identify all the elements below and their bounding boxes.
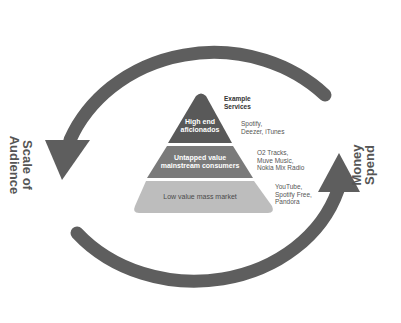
tier3-line1: Low value mass market	[145, 193, 255, 201]
tier2-line2: mainstream consumers	[150, 162, 250, 170]
service-item: O2 Tracks,	[257, 149, 304, 157]
services-high-end: Spotify, Deezer, iTunes	[241, 120, 284, 135]
left-label-line1: Scale of	[21, 130, 34, 200]
arrowhead-down-icon	[45, 140, 90, 180]
money-spend-label: Money Spend	[350, 130, 380, 200]
tier2-line1: Untapped value	[150, 154, 250, 162]
tier1-line2: aficionados	[168, 126, 232, 134]
service-item: Spotify Free,	[275, 191, 312, 199]
tier1-line1: High end	[168, 118, 232, 126]
services-mass-market: YouTube, Spotify Free, Pandora	[275, 183, 312, 206]
service-item: Deezer, iTunes	[241, 128, 284, 136]
tier-label-untapped: Untapped value mainstream consumers	[150, 154, 250, 170]
service-item: Spotify,	[241, 120, 284, 128]
service-item: Muve Music,	[257, 157, 304, 165]
service-item: YouTube,	[275, 183, 312, 191]
service-item: Pandora	[275, 198, 312, 206]
scale-of-audience-label: Scale of Audience	[4, 130, 34, 200]
services-untapped: O2 Tracks, Muve Music, Nokia Mix Radio	[257, 149, 304, 172]
tier-label-mass-market: Low value mass market	[145, 193, 255, 201]
example-services-header: Example Services	[224, 95, 251, 110]
services-header-line1: Example	[224, 95, 251, 103]
left-label-line2: Audience	[8, 130, 21, 200]
tier-label-high-end: High end aficionados	[168, 118, 232, 134]
right-label-line2: Spend	[363, 130, 376, 200]
services-header-line2: Services	[224, 103, 251, 111]
service-item: Nokia Mix Radio	[257, 164, 304, 172]
